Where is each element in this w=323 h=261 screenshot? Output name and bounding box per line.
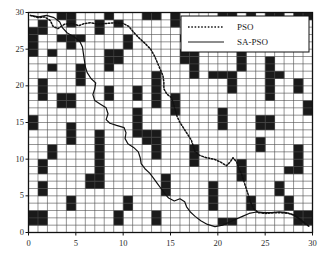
obstacle-cell bbox=[284, 203, 294, 211]
obstacle-cell bbox=[208, 196, 218, 204]
obstacle-cell bbox=[142, 137, 152, 145]
y-tick-label: 30 bbox=[2, 7, 24, 17]
obstacle-cell bbox=[189, 57, 199, 65]
obstacle-cell bbox=[133, 93, 143, 101]
obstacle-cell bbox=[38, 167, 48, 175]
obstacle-cell bbox=[57, 101, 67, 109]
obstacle-cell bbox=[47, 49, 57, 57]
obstacle-cell bbox=[227, 79, 237, 87]
obstacle-cell bbox=[152, 101, 162, 109]
obstacle-cell bbox=[95, 174, 105, 182]
obstacle-cell bbox=[152, 86, 162, 94]
obstacle-cell bbox=[294, 167, 304, 175]
obstacle-cell bbox=[161, 181, 171, 189]
obstacle-cell bbox=[38, 79, 48, 87]
obstacle-cell bbox=[95, 27, 105, 35]
obstacle-cell bbox=[29, 49, 39, 57]
obstacle-cell bbox=[104, 93, 114, 101]
obstacle-cell bbox=[114, 218, 124, 226]
obstacle-cell bbox=[218, 115, 228, 123]
obstacle-cell bbox=[142, 13, 152, 21]
obstacle-cell bbox=[47, 145, 57, 153]
obstacle-cell bbox=[29, 211, 39, 219]
y-tick-label: 15 bbox=[2, 117, 24, 127]
obstacle-cell bbox=[142, 130, 152, 138]
obstacle-cell bbox=[237, 57, 247, 65]
obstacle-cell bbox=[265, 93, 275, 101]
obstacle-cell bbox=[104, 49, 114, 57]
obstacle-cell bbox=[66, 130, 76, 138]
y-tick-label: 0 bbox=[2, 227, 24, 237]
x-tick-label: 10 bbox=[113, 238, 133, 248]
obstacle-cell bbox=[303, 101, 313, 109]
obstacle-cell bbox=[294, 159, 304, 167]
obstacle-cell bbox=[57, 35, 67, 43]
obstacle-cell bbox=[152, 130, 162, 138]
obstacle-cell bbox=[38, 20, 48, 28]
obstacle-cell bbox=[275, 71, 285, 79]
obstacle-cell bbox=[123, 42, 133, 50]
obstacle-cell bbox=[38, 181, 48, 189]
obstacle-cell bbox=[38, 189, 48, 197]
obstacle-cell bbox=[265, 71, 275, 79]
obstacle-cell bbox=[256, 137, 266, 145]
obstacle-cell bbox=[123, 196, 133, 204]
obstacle-cell bbox=[114, 211, 124, 219]
obstacle-cell bbox=[152, 211, 162, 219]
obstacle-cell bbox=[303, 211, 313, 219]
obstacle-cell bbox=[38, 218, 48, 226]
obstacle-cell bbox=[237, 64, 247, 72]
obstacle-cell bbox=[294, 86, 304, 94]
x-tick-label: 15 bbox=[161, 238, 181, 248]
obstacle-cell bbox=[189, 64, 199, 72]
obstacle-cell bbox=[47, 64, 57, 72]
obstacle-cell bbox=[66, 196, 76, 204]
obstacle-cell bbox=[218, 123, 228, 131]
obstacle-cell bbox=[256, 115, 266, 123]
obstacle-cell bbox=[218, 108, 228, 116]
obstacle-cell bbox=[218, 218, 228, 226]
obstacle-cell bbox=[189, 71, 199, 79]
obstacle-cell bbox=[294, 145, 304, 153]
obstacle-cell bbox=[152, 13, 162, 21]
obstacle-cell bbox=[218, 71, 228, 79]
obstacle-cell bbox=[265, 115, 275, 123]
legend-box: PSOSA-PSO bbox=[181, 16, 309, 52]
obstacle-cell bbox=[95, 145, 105, 153]
obstacle-cell bbox=[76, 64, 86, 72]
obstacle-cell bbox=[114, 49, 124, 57]
obstacle-cell bbox=[133, 115, 143, 123]
obstacle-cell bbox=[38, 159, 48, 167]
obstacle-cell bbox=[152, 71, 162, 79]
obstacle-cell bbox=[265, 79, 275, 87]
obstacle-cell bbox=[95, 152, 105, 160]
obstacle-cell bbox=[275, 189, 285, 197]
obstacle-cell bbox=[152, 93, 162, 101]
obstacle-cell bbox=[208, 71, 218, 79]
obstacle-cell bbox=[66, 101, 76, 109]
obstacle-cell bbox=[29, 218, 39, 226]
obstacle-cell bbox=[208, 203, 218, 211]
legend-label-sa-pso: SA-PSO bbox=[237, 37, 269, 47]
x-tick-label: 25 bbox=[255, 238, 275, 248]
y-tick-label: 20 bbox=[2, 80, 24, 90]
x-tick-label: 20 bbox=[208, 238, 228, 248]
obstacle-cell bbox=[66, 137, 76, 145]
obstacle-cell bbox=[66, 123, 76, 131]
obstacle-cell bbox=[76, 79, 86, 87]
obstacle-cell bbox=[227, 86, 237, 94]
obstacle-cell bbox=[265, 57, 275, 65]
obstacle-cell bbox=[171, 20, 181, 28]
obstacle-cell bbox=[38, 93, 48, 101]
obstacle-cell bbox=[133, 86, 143, 94]
obstacle-cell bbox=[256, 145, 266, 153]
obstacle-cell bbox=[265, 123, 275, 131]
obstacle-cell bbox=[237, 167, 247, 175]
obstacle-cell bbox=[29, 115, 39, 123]
obstacle-cell bbox=[123, 203, 133, 211]
obstacle-cell bbox=[95, 181, 105, 189]
obstacle-cell bbox=[29, 27, 39, 35]
obstacle-cell bbox=[29, 123, 39, 131]
obstacle-cell bbox=[29, 42, 39, 50]
obstacle-cell bbox=[189, 159, 199, 167]
